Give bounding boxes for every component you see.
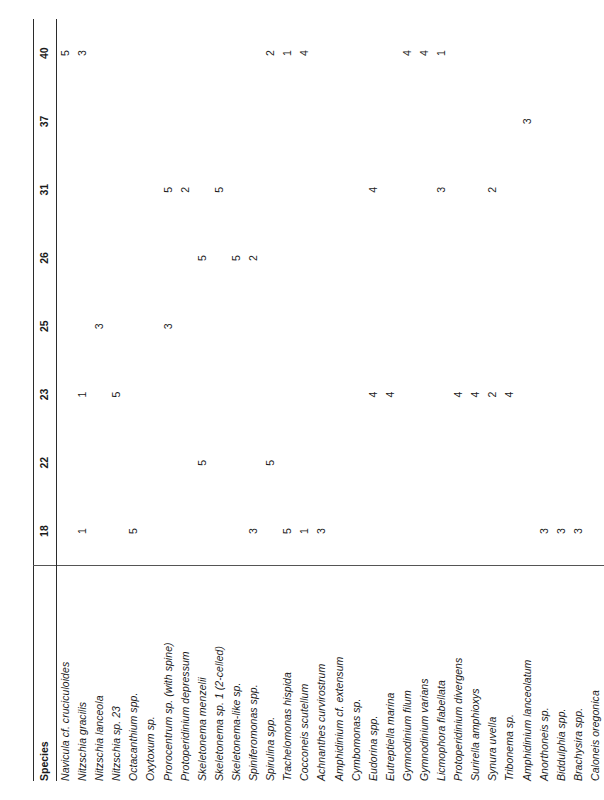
abundance-cell bbox=[399, 87, 416, 155]
abundance-cell bbox=[108, 87, 125, 155]
abundance-cell bbox=[501, 497, 518, 566]
table-row: Nitzschia gracilis113 bbox=[74, 19, 91, 781]
abundance-cell bbox=[467, 19, 484, 87]
abundance-cell bbox=[313, 19, 330, 87]
abundance-cell bbox=[74, 87, 91, 155]
abundance-cell: 2 bbox=[484, 156, 501, 224]
abundance-cell bbox=[450, 19, 467, 87]
abundance-cell bbox=[467, 87, 484, 155]
abundance-cell bbox=[382, 156, 399, 224]
abundance-cell bbox=[194, 292, 211, 360]
abundance-cell: 3 bbox=[313, 497, 330, 566]
abundance-cell bbox=[142, 292, 159, 360]
abundance-cell: 4 bbox=[365, 156, 382, 224]
abundance-cell bbox=[365, 429, 382, 497]
abundance-cell bbox=[399, 224, 416, 292]
abundance-cell: 5 bbox=[160, 156, 177, 224]
abundance-cell bbox=[108, 224, 125, 292]
species-abundance-table: Species 1822232526313740 Navicula cf. cr… bbox=[33, 19, 604, 781]
abundance-cell bbox=[587, 156, 604, 224]
table-row: Gymnodinium varians4 bbox=[416, 19, 433, 781]
species-name-cell: Cocconeis scutellum bbox=[296, 566, 313, 781]
species-name-cell: Skeletonema sp. 1 (2-celled) bbox=[211, 566, 228, 781]
table-row: Navicula cf. cruciculoides5 bbox=[57, 19, 75, 781]
species-name-cell: Caloneis oregonica bbox=[587, 566, 604, 781]
abundance-cell: 3 bbox=[160, 292, 177, 360]
abundance-cell bbox=[399, 156, 416, 224]
abundance-cell bbox=[142, 19, 159, 87]
abundance-cell bbox=[382, 19, 399, 87]
abundance-cell bbox=[125, 156, 142, 224]
abundance-cell bbox=[262, 156, 279, 224]
abundance-cell bbox=[57, 429, 75, 497]
abundance-cell bbox=[313, 292, 330, 360]
abundance-cell bbox=[484, 19, 501, 87]
abundance-cell bbox=[467, 429, 484, 497]
table-row: Caloneis oregonica bbox=[587, 19, 604, 781]
abundance-cell bbox=[228, 429, 245, 497]
abundance-cell: 4 bbox=[416, 19, 433, 87]
abundance-cell bbox=[211, 360, 228, 428]
abundance-cell bbox=[211, 497, 228, 566]
species-name-cell: Tribonema sp. bbox=[501, 566, 518, 781]
abundance-cell bbox=[348, 19, 365, 87]
abundance-cell bbox=[91, 87, 108, 155]
abundance-cell bbox=[553, 87, 570, 155]
abundance-cell bbox=[365, 87, 382, 155]
abundance-cell bbox=[382, 497, 399, 566]
abundance-cell bbox=[348, 87, 365, 155]
abundance-cell bbox=[57, 292, 75, 360]
abundance-cell bbox=[177, 360, 194, 428]
abundance-cell bbox=[177, 292, 194, 360]
abundance-cell bbox=[519, 156, 536, 224]
abundance-cell bbox=[382, 224, 399, 292]
table-row: Eutreptiella marina4 bbox=[382, 19, 399, 781]
abundance-cell bbox=[484, 87, 501, 155]
abundance-cell bbox=[382, 87, 399, 155]
abundance-cell: 5 bbox=[125, 497, 142, 566]
abundance-cell bbox=[331, 429, 348, 497]
abundance-cell bbox=[348, 224, 365, 292]
species-name-cell: Brachysira spp. bbox=[570, 566, 587, 781]
table-row: Skeletonema menzelii55 bbox=[194, 19, 211, 781]
abundance-cell bbox=[467, 156, 484, 224]
abundance-cell bbox=[450, 497, 467, 566]
abundance-cell bbox=[536, 156, 553, 224]
abundance-cell bbox=[399, 292, 416, 360]
abundance-cell: 3 bbox=[91, 292, 108, 360]
abundance-cell bbox=[570, 292, 587, 360]
abundance-cell bbox=[142, 224, 159, 292]
abundance-cell bbox=[57, 224, 75, 292]
species-name-cell: Protoperidinium depressum bbox=[177, 566, 194, 781]
abundance-cell bbox=[74, 429, 91, 497]
abundance-cell: 5 bbox=[194, 224, 211, 292]
abundance-cell bbox=[177, 224, 194, 292]
abundance-cell bbox=[211, 224, 228, 292]
abundance-cell bbox=[501, 429, 518, 497]
abundance-cell bbox=[416, 497, 433, 566]
abundance-cell: 1 bbox=[296, 497, 313, 566]
abundance-cell: 4 bbox=[399, 19, 416, 87]
abundance-cell bbox=[467, 224, 484, 292]
table-header-row: Species 1822232526313740 bbox=[34, 19, 57, 781]
table-row: Spirulina spp.52 bbox=[262, 19, 279, 781]
abundance-cell bbox=[570, 87, 587, 155]
abundance-cell bbox=[433, 292, 450, 360]
abundance-cell: 4 bbox=[365, 360, 382, 428]
table-row: Amphidinium cf. extensum bbox=[331, 19, 348, 781]
abundance-cell bbox=[484, 497, 501, 566]
abundance-cell bbox=[365, 224, 382, 292]
species-name-cell: Skeletonema menzelii bbox=[194, 566, 211, 781]
table-row: Tribonema sp.4 bbox=[501, 19, 518, 781]
abundance-cell bbox=[262, 292, 279, 360]
abundance-cell bbox=[125, 19, 142, 87]
abundance-cell bbox=[348, 360, 365, 428]
abundance-cell bbox=[570, 156, 587, 224]
abundance-cell bbox=[313, 156, 330, 224]
column-header-sample-26: 26 bbox=[34, 224, 57, 292]
abundance-cell bbox=[245, 360, 262, 428]
abundance-cell: 3 bbox=[74, 19, 91, 87]
abundance-cell: 3 bbox=[433, 156, 450, 224]
abundance-cell: 2 bbox=[245, 224, 262, 292]
abundance-cell bbox=[211, 429, 228, 497]
